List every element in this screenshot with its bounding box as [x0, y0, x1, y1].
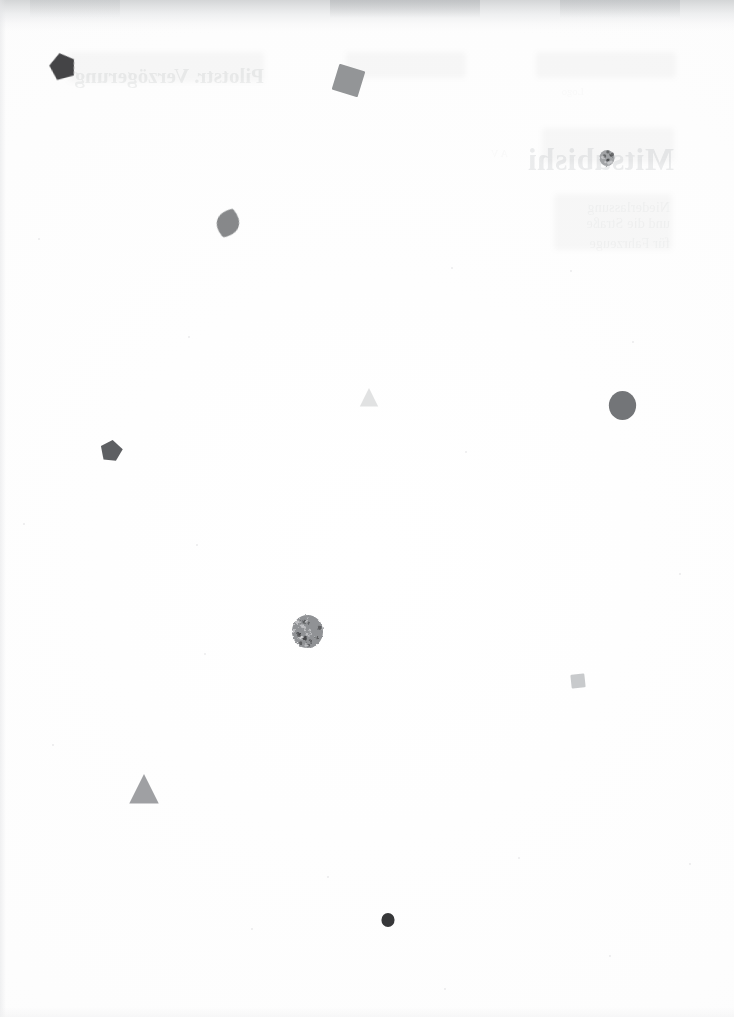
bleed-through-line: Pilotstr. Verzögerung — [75, 64, 264, 89]
scan-speck — [444, 988, 446, 990]
scanner-bottom-edge-shadow — [0, 1007, 734, 1017]
bleed-through-line: für Fahrzeuge — [589, 236, 670, 252]
scan-speck — [518, 857, 520, 859]
particle-mark-square — [329, 61, 368, 100]
scan-speck — [465, 451, 467, 453]
scan-speck — [570, 270, 572, 272]
bleed-through-line: und die Straße — [586, 216, 670, 232]
scan-speck — [632, 341, 634, 343]
scan-speck — [23, 523, 25, 525]
scanner-edge-streak — [30, 0, 120, 18]
bleed-through-line: A V — [491, 148, 508, 159]
scan-speck — [689, 863, 691, 865]
bleed-through-line: Logo — [562, 86, 584, 97]
scanned-page: Pilotstr. VerzögerungMitsubishiNiederlas… — [0, 0, 734, 1017]
particle-mark-circle — [593, 144, 621, 172]
particle-mark-pentagon — [94, 434, 128, 468]
scan-speck — [451, 267, 453, 269]
scanner-edge-streak — [560, 0, 680, 18]
scan-speck — [251, 928, 253, 930]
particle-mark-lens — [207, 202, 249, 244]
scan-speck — [679, 573, 681, 575]
scan-speck — [204, 653, 206, 655]
particle-mark-triangle — [122, 768, 166, 812]
particle-mark-square — [565, 668, 591, 694]
particle-mark-circle — [602, 385, 643, 426]
scan-speck — [196, 544, 198, 546]
scan-speck — [38, 238, 40, 240]
bleed-through-block — [554, 194, 672, 250]
particle-mark-triangle — [353, 382, 385, 414]
particle-mark-circle — [375, 907, 401, 933]
particle-mark-pentagon — [43, 47, 83, 87]
scan-speck — [52, 744, 54, 746]
scan-speck — [327, 876, 329, 878]
scan-speck — [609, 955, 611, 957]
bleed-through-text-layer: Pilotstr. VerzögerungMitsubishiNiederlas… — [0, 0, 734, 1017]
bleed-through-block — [536, 52, 676, 78]
scanner-edge-streak — [330, 0, 480, 18]
bleed-through-block — [68, 52, 264, 82]
bleed-through-line: Niederlassung — [587, 200, 670, 216]
scan-speck — [188, 336, 190, 338]
particle-mark-circle — [285, 609, 330, 654]
scanner-left-edge-shadow — [0, 0, 6, 1017]
